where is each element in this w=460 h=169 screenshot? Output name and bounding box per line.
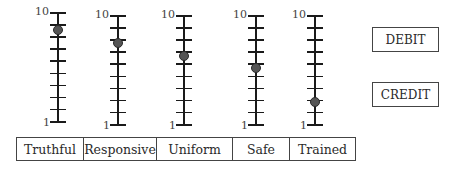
tick-mark bbox=[248, 112, 264, 114]
rating-marker[interactable] bbox=[53, 25, 63, 35]
credit-button[interactable]: CREDIT bbox=[372, 82, 439, 107]
label-trained: Trained bbox=[289, 138, 355, 160]
tick-mark bbox=[176, 124, 192, 126]
axis-line bbox=[117, 15, 119, 124]
rating-marker[interactable] bbox=[113, 38, 123, 48]
tick-mark bbox=[50, 121, 66, 123]
tick-mark bbox=[307, 15, 323, 17]
debit-button[interactable]: DEBIT bbox=[372, 27, 439, 52]
tick-mark bbox=[176, 27, 192, 29]
tick-mark bbox=[110, 88, 126, 90]
tick-mark bbox=[307, 39, 323, 41]
label-responsive: Responsive bbox=[83, 138, 156, 160]
tick-label-bottom: 1 bbox=[300, 120, 307, 131]
tick-mark bbox=[110, 76, 126, 78]
tick-mark bbox=[248, 27, 264, 29]
tick-mark bbox=[110, 27, 126, 29]
tick-label-top: 10 bbox=[161, 9, 175, 20]
tick-label-top: 10 bbox=[292, 9, 306, 20]
tick-mark bbox=[307, 51, 323, 53]
tick-label-bottom: 1 bbox=[169, 120, 176, 131]
tick-mark bbox=[110, 112, 126, 114]
tick-label-top: 10 bbox=[233, 9, 247, 20]
tick-mark bbox=[307, 27, 323, 29]
tick-mark bbox=[248, 76, 264, 78]
label-safe: Safe bbox=[232, 138, 289, 160]
rating-marker[interactable] bbox=[251, 63, 261, 73]
tick-mark bbox=[50, 48, 66, 50]
tick-mark bbox=[176, 76, 192, 78]
tick-mark bbox=[248, 51, 264, 53]
rating-marker[interactable] bbox=[179, 51, 189, 61]
tick-mark bbox=[50, 36, 66, 38]
tick-mark bbox=[110, 51, 126, 53]
tick-label-top: 10 bbox=[95, 9, 109, 20]
tick-mark bbox=[50, 73, 66, 75]
tick-mark bbox=[248, 88, 264, 90]
tick-mark bbox=[50, 85, 66, 87]
label-truthful: Truthful bbox=[17, 138, 83, 160]
tick-mark bbox=[248, 15, 264, 17]
tick-mark bbox=[110, 63, 126, 65]
tick-label-bottom: 1 bbox=[43, 117, 50, 128]
axis-line bbox=[183, 15, 185, 124]
tick-mark bbox=[307, 88, 323, 90]
tick-mark bbox=[110, 124, 126, 126]
tick-mark bbox=[307, 124, 323, 126]
tick-mark bbox=[248, 100, 264, 102]
tick-mark bbox=[307, 76, 323, 78]
tick-mark bbox=[248, 124, 264, 126]
tick-mark bbox=[50, 97, 66, 99]
tick-mark bbox=[50, 60, 66, 62]
tick-label-bottom: 1 bbox=[103, 120, 110, 131]
tick-mark bbox=[307, 63, 323, 65]
tick-label-bottom: 1 bbox=[241, 120, 248, 131]
tick-mark bbox=[176, 88, 192, 90]
tick-mark bbox=[176, 112, 192, 114]
tick-mark bbox=[50, 109, 66, 111]
tick-mark bbox=[307, 112, 323, 114]
label-uniform: Uniform bbox=[156, 138, 232, 160]
tick-mark bbox=[176, 39, 192, 41]
tick-mark bbox=[110, 15, 126, 17]
tick-label-top: 10 bbox=[35, 6, 49, 17]
rating-marker[interactable] bbox=[310, 97, 320, 107]
tick-mark bbox=[176, 63, 192, 65]
scale-label-row: Truthful Responsive Uniform Safe Trained bbox=[16, 137, 356, 161]
axis-line bbox=[314, 15, 316, 124]
tick-mark bbox=[50, 12, 66, 14]
tick-mark bbox=[176, 15, 192, 17]
tick-mark bbox=[176, 100, 192, 102]
tick-mark bbox=[248, 39, 264, 41]
tick-mark bbox=[110, 100, 126, 102]
